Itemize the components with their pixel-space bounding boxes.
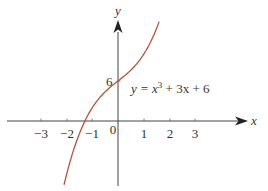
equation-part-2: + 3x + 6: [162, 81, 210, 96]
x-tick-label: −1: [85, 126, 99, 141]
equation-annotation: y = x3 + 3x + 6: [129, 80, 210, 96]
equation-part-1: y = x: [129, 81, 158, 96]
x-tick-label: −3: [34, 126, 48, 141]
y-intercept-label: 6: [106, 74, 113, 89]
x-tick-label-origin: 0: [110, 122, 117, 137]
x-tick-label: 2: [167, 126, 174, 141]
x-tick-label: −2: [60, 126, 74, 141]
x-axis-label: x: [250, 113, 257, 128]
y-axis-label: y: [113, 3, 121, 18]
x-tick-labels: −3 −2 −1 0 1 2 3: [34, 122, 198, 141]
x-tick-label: 3: [192, 126, 199, 141]
cubic-curve: [64, 22, 159, 185]
cubic-function-graph: x y −3 −2 −1 0 1 2 3 6 y = x3 + 3x + 6: [0, 0, 268, 191]
y-axis-arrow-icon: [114, 20, 123, 33]
x-tick-label: 1: [141, 126, 148, 141]
